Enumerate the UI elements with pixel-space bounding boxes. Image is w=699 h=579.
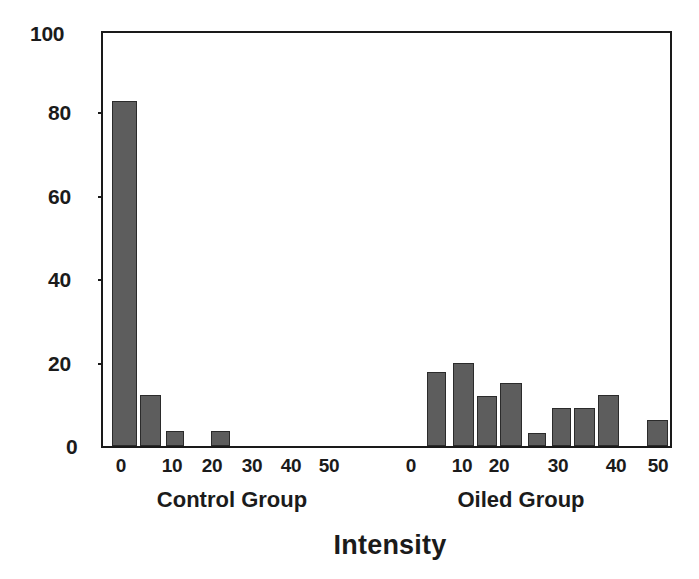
bar-oiled-35 [574, 408, 595, 446]
x-tick-label-oiled-40: 40 [606, 455, 627, 477]
bar-oiled-15 [477, 396, 497, 446]
x-tick-label-control-20: 20 [202, 455, 223, 477]
group-label-control: Control Group [157, 487, 307, 513]
x-tick-label-control-40: 40 [281, 455, 302, 477]
plot-area [103, 33, 670, 446]
x-tick-label-control-0: 0 [116, 455, 126, 477]
bar-oiled-40 [598, 395, 619, 446]
x-tick-label-control-30: 30 [242, 455, 263, 477]
x-tick-label-oiled-30: 30 [548, 455, 569, 477]
bar-control-20 [211, 431, 230, 446]
bar-oiled-10 [453, 363, 474, 446]
bar-control-10 [166, 431, 184, 446]
group-label-oiled: Oiled Group [457, 487, 584, 513]
x-tick-label-control-10: 10 [162, 455, 183, 477]
bar-oiled-25 [528, 433, 546, 446]
bar-oiled-30 [552, 408, 571, 446]
x-tick-label-oiled-10: 10 [452, 455, 473, 477]
x-tick-label-oiled-50: 50 [648, 455, 669, 477]
bar-oiled-5 [427, 372, 446, 446]
bar-oiled-50 [647, 420, 668, 446]
x-tick-label-oiled-0: 0 [406, 455, 416, 477]
bar-control-5 [140, 395, 161, 446]
bar-chart-figure: Prevalence 100 80 60 40 20 0 0 [0, 0, 699, 579]
x-tick-label-oiled-20: 20 [489, 455, 510, 477]
bar-control-0 [112, 101, 137, 446]
y-axis-title-wrapper: Prevalence [8, 60, 44, 390]
bar-oiled-20 [500, 383, 522, 446]
x-axis-title: Intensity [334, 530, 447, 561]
x-tick-label-control-50: 50 [319, 455, 340, 477]
plot-frame [101, 31, 672, 448]
